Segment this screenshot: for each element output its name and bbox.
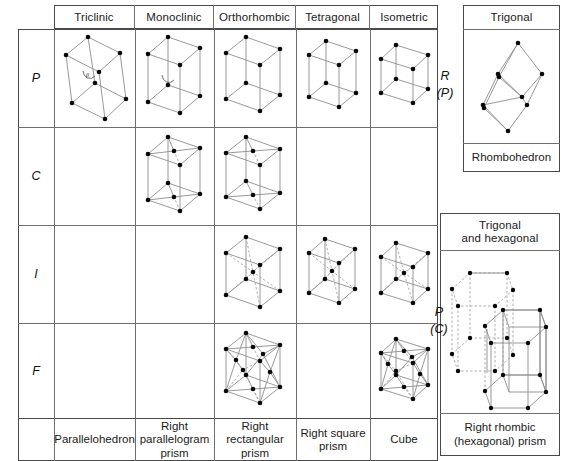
trigonal-header-label: Trigonal xyxy=(491,11,533,24)
hexagonal-header-divider xyxy=(440,250,560,251)
column-header-orthorhombic-label: Orthorhombic xyxy=(219,11,290,24)
hexagonal-footer: Right rhombic (hexagonal) prism xyxy=(440,413,560,456)
side-label-r: R xyxy=(440,68,449,85)
column-header-monoclinic: Monoclinic xyxy=(135,5,214,29)
footer-isometric: Cube xyxy=(370,419,438,461)
footer-monoclinic-l3: prism xyxy=(160,447,188,459)
footer-isometric-l1: Cube xyxy=(390,433,418,445)
hexagonal-header: Trigonal and hexagonal xyxy=(440,213,560,250)
row-label-p-text: P xyxy=(32,71,40,85)
bravais-main-table: Triclinic Monoclinic Orthorhombic Tetrag… xyxy=(18,5,438,456)
footer-orthorhombic: Right rectangular prism xyxy=(214,419,296,461)
side-label-p-c: P (C) xyxy=(424,292,454,350)
column-header-triclinic-label: Triclinic xyxy=(74,11,113,24)
hexagonal-footer-l2: (hexagonal) prism xyxy=(454,435,546,449)
lattice-isometric-p xyxy=(376,39,436,117)
footer-tetragonal-l1: Right square xyxy=(300,427,365,439)
trigonal-footer: Rhombohedron xyxy=(463,143,560,172)
grid-hline-3 xyxy=(18,323,438,324)
hexagonal-header-l1: Trigonal xyxy=(479,219,521,232)
hexagonal-panel: Trigonal and hexagonal xyxy=(440,213,560,456)
row-label-c-text: C xyxy=(31,169,40,183)
column-header-isometric: Isometric xyxy=(370,5,438,29)
row-label-i: I xyxy=(18,225,54,323)
footer-orthorhombic-l3: prism xyxy=(241,447,269,459)
side-label-p-paren: (P) xyxy=(437,85,454,102)
grid-hline-2 xyxy=(18,225,438,226)
footer-orthorhombic-l1: Right xyxy=(242,420,269,432)
lattice-tetragonal-p xyxy=(304,35,364,121)
lattice-tetragonal-i xyxy=(304,233,364,319)
hexagonal-header-l2: and hexagonal xyxy=(462,232,539,245)
lattice-rhombohedron xyxy=(477,35,551,139)
side-label-c-paren: (C) xyxy=(430,321,447,338)
lattice-orthorhombic-f xyxy=(220,327,290,417)
footer-monoclinic: Right parallelogram prism xyxy=(135,419,214,461)
footer-triclinic: Parallelohedron xyxy=(54,419,135,461)
grid-vline-1 xyxy=(54,29,55,419)
trigonal-header-divider xyxy=(463,29,560,30)
row-label-i-text: I xyxy=(34,267,37,281)
svg-text:β: β xyxy=(85,72,89,78)
lattice-triclinic-p: β xyxy=(58,31,134,125)
footer-monoclinic-l1: Right xyxy=(161,420,188,432)
row-label-f: F xyxy=(18,323,54,419)
column-header-orthorhombic: Orthorhombic xyxy=(214,5,296,29)
grid-hline-1 xyxy=(18,127,438,128)
column-header-triclinic: Triclinic xyxy=(54,5,135,29)
column-header-tetragonal-label: Tetragonal xyxy=(305,11,360,24)
row-label-c: C xyxy=(18,127,54,225)
column-header-isometric-label: Isometric xyxy=(380,11,428,24)
column-header-tetragonal: Tetragonal xyxy=(296,5,370,29)
lattice-orthorhombic-p xyxy=(220,31,290,125)
grid-vline-3 xyxy=(214,29,215,419)
grid-vline-4 xyxy=(296,29,297,419)
hexagonal-footer-l1: Right rhombic xyxy=(465,421,536,435)
lattice-orthorhombic-c xyxy=(220,131,290,223)
side-label-r-p: R (P) xyxy=(428,55,462,115)
footer-triclinic-l1: Parallelohedron xyxy=(54,433,135,445)
row-label-f-text: F xyxy=(32,364,40,378)
lattice-monoclinic-p xyxy=(142,31,210,125)
footer-tetragonal-l2: prism xyxy=(319,440,347,452)
footer-monoclinic-l2: parallelogram xyxy=(140,433,210,445)
grid-vline-2 xyxy=(135,29,136,419)
trigonal-panel: Trigonal xyxy=(463,5,560,172)
grid-vline-5 xyxy=(370,29,371,419)
lattice-monoclinic-c xyxy=(142,131,210,223)
row-label-p: P xyxy=(18,29,54,127)
trigonal-footer-label: Rhombohedron xyxy=(472,151,551,165)
side-label-p: P xyxy=(435,304,443,321)
footer-tetragonal: Right square prism xyxy=(296,419,370,461)
lattice-hexagonal-prism xyxy=(450,255,552,410)
column-header-monoclinic-label: Monoclinic xyxy=(146,11,201,24)
trigonal-header: Trigonal xyxy=(463,5,560,29)
lattice-orthorhombic-i xyxy=(220,231,290,321)
footer-orthorhombic-l2: rectangular xyxy=(226,433,284,445)
